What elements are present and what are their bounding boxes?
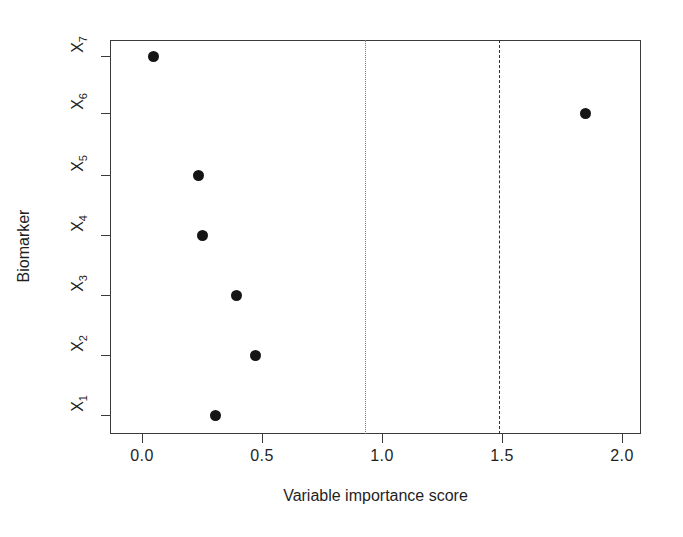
y-tick-label-x5-base: X: [69, 161, 86, 172]
reference-line-dashed: [499, 40, 500, 434]
y-tick-label-x5: X5: [68, 155, 88, 195]
y-tick-label-x2-sub: 2: [77, 335, 89, 341]
data-point-x2: [250, 350, 261, 361]
y-tick-x3: [101, 295, 110, 296]
y-tick-label-x7-base: X: [69, 42, 86, 53]
data-point-x3: [231, 290, 242, 301]
x-tick-2: [382, 434, 383, 443]
y-tick-label-x1-base: X: [69, 401, 86, 412]
y-tick-label-x1: X1: [68, 395, 88, 435]
y-tick-label-x2: X2: [68, 335, 88, 375]
data-point-x1: [210, 410, 221, 421]
y-tick-label-x4: X4: [68, 215, 88, 255]
data-point-x4: [197, 230, 208, 241]
y-tick-label-x6-sub: 6: [77, 93, 89, 99]
x-tick-1: [262, 434, 263, 443]
y-tick-label-x4-base: X: [69, 221, 86, 232]
data-point-x6: [580, 108, 591, 119]
y-tick-x4: [101, 235, 110, 236]
y-tick-x2: [101, 355, 110, 356]
y-tick-label-x4-sub: 4: [77, 215, 89, 221]
y-tick-label-x3-sub: 3: [77, 275, 89, 281]
y-axis-title: Biomarker: [15, 186, 33, 306]
y-tick-label-x7-sub: 7: [77, 36, 89, 42]
y-tick-label-x1-sub: 1: [77, 395, 89, 401]
y-tick-label-x6-base: X: [69, 99, 86, 110]
x-tick-0: [142, 434, 143, 443]
variable-importance-scatter-figure: 0.0 0.5 1.0 1.5 2.0 X7 X6 X5 X4 X3 X2 X1…: [0, 0, 683, 537]
y-tick-x6: [101, 113, 110, 114]
plot-area: [110, 40, 641, 434]
y-tick-label-x3-base: X: [69, 281, 86, 292]
reference-line-dotted: [365, 40, 366, 434]
y-tick-label-x6: X6: [68, 93, 88, 133]
x-tick-label-3: 1.5: [472, 447, 532, 465]
y-tick-label-x7: X7: [68, 36, 88, 76]
x-tick-label-1: 0.5: [232, 447, 292, 465]
y-tick-x7: [101, 56, 110, 57]
y-tick-label-x5-sub: 5: [77, 155, 89, 161]
x-tick-label-0: 0.0: [112, 447, 172, 465]
y-tick-label-x2-base: X: [69, 341, 86, 352]
x-tick-3: [502, 434, 503, 443]
x-tick-label-4: 2.0: [592, 447, 652, 465]
data-point-x5: [193, 170, 204, 181]
y-tick-label-x3: X3: [68, 275, 88, 315]
x-tick-label-2: 1.0: [352, 447, 412, 465]
y-tick-x5: [101, 175, 110, 176]
y-tick-x1: [101, 415, 110, 416]
x-axis-title: Variable importance score: [110, 487, 641, 505]
x-tick-4: [622, 434, 623, 443]
data-point-x7: [148, 51, 159, 62]
